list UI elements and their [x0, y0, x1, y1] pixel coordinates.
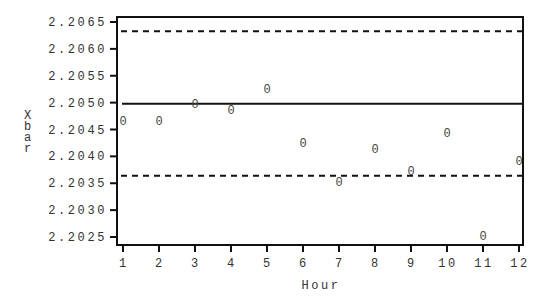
x-tick-label: 4 — [227, 257, 237, 271]
y-tick-label: 2.2040 — [48, 150, 107, 164]
x-tick-label: 11 — [474, 257, 494, 271]
plot-frame — [117, 17, 523, 245]
y-tick-label: 2.2065 — [48, 16, 107, 30]
y-tick-label: 2.2055 — [48, 70, 107, 84]
y-tick-label: 2.2030 — [48, 204, 107, 218]
data-point: 0 — [191, 98, 198, 112]
data-point: 0 — [227, 104, 234, 118]
data-point: 0 — [299, 137, 306, 151]
reference-lines — [121, 31, 523, 176]
data-point: 0 — [479, 230, 486, 244]
data-point: 0 — [407, 165, 414, 179]
data-point: 0 — [515, 155, 522, 169]
x-tick-label: 1 — [119, 257, 129, 271]
data-point: 0 — [371, 143, 378, 157]
x-tick-label: 8 — [371, 257, 381, 271]
data-point: 0 — [335, 176, 342, 190]
y-tick-label: 2.2035 — [48, 177, 107, 191]
data-points: 000000000000 — [119, 83, 522, 244]
data-point: 0 — [155, 115, 162, 129]
xbar-control-chart: 2.20252.20302.20352.20402.20452.20502.20… — [0, 0, 549, 299]
y-axis-label-char: r — [24, 142, 34, 156]
data-point: 0 — [119, 115, 126, 129]
x-tick-label: 9 — [407, 257, 417, 271]
x-axis: 123456789101112 — [119, 245, 530, 271]
x-axis-label: Hour — [301, 279, 340, 293]
y-axis: 2.20252.20302.20352.20402.20452.20502.20… — [48, 16, 117, 245]
data-point: 0 — [263, 83, 270, 97]
x-tick-label: 5 — [263, 257, 273, 271]
x-tick-label: 7 — [335, 257, 345, 271]
data-point: 0 — [443, 127, 450, 141]
y-tick-label: 2.2050 — [48, 97, 107, 111]
y-tick-label: 2.2045 — [48, 124, 107, 138]
x-tick-label: 12 — [510, 257, 530, 271]
y-tick-label: 2.2025 — [48, 231, 107, 245]
x-tick-label: 3 — [191, 257, 201, 271]
y-axis-label: Xbar — [24, 109, 34, 156]
x-tick-label: 2 — [155, 257, 165, 271]
x-tick-label: 10 — [438, 257, 458, 271]
x-tick-label: 6 — [299, 257, 309, 271]
y-tick-label: 2.2060 — [48, 43, 107, 57]
